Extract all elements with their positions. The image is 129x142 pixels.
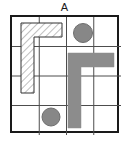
figure-panel: A [0,0,129,142]
grid-lines [12,17,121,135]
puzzle-grid[interactable] [10,15,119,133]
page-title: A [0,1,129,13]
